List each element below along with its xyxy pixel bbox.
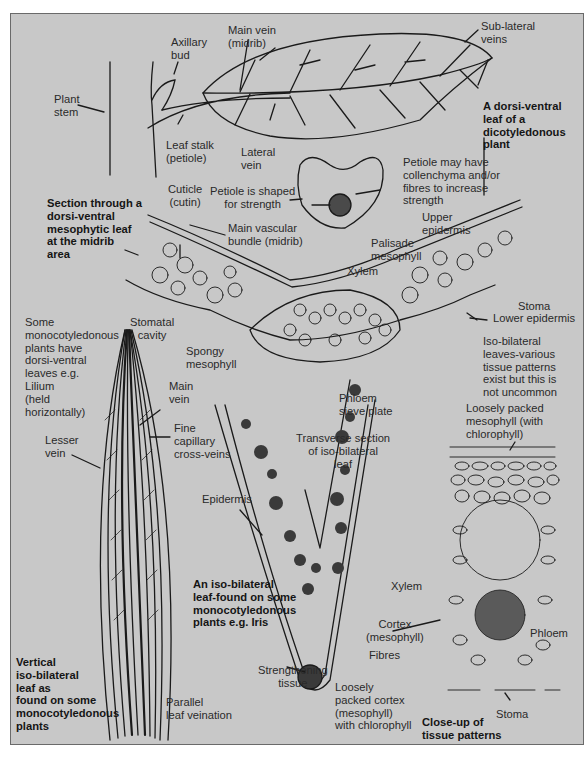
label-spongy-mesophyll: Spongy mesophyll <box>186 345 236 371</box>
label-parallel-veination: Parallel leaf veination <box>166 696 232 722</box>
lower-epidermis <box>126 280 495 340</box>
petiole-vascular-bundle <box>329 194 351 216</box>
label-petiole-shaped: Petiole is shaped for strength <box>210 185 295 211</box>
label-main-vascular-bundle: Main vascular bundle (midrib) <box>228 222 303 248</box>
label-xylem-iso: Xylem <box>391 580 422 593</box>
label-lilium-note: Some monocotyledonous plants have dorsi-… <box>25 316 119 418</box>
label-plant-stem: Plant stem <box>54 93 80 119</box>
label-petiole-collenchyma: Petiole may have collenchyma and/or fibr… <box>403 156 500 207</box>
label-loosely-packed-cortex: Loosely packed cortex (mesophyll) with c… <box>335 681 411 732</box>
label-lesser-vein: Lesser vein <box>45 434 79 460</box>
title-midrib-section: Section through a dorsi-ventral mesophyt… <box>47 197 142 261</box>
label-phloem-closeup: Phloem <box>530 627 568 640</box>
label-xylem-midrib: Xylem <box>347 265 378 278</box>
title-dicot-leaf: A dorsi-ventral leaf of a dicotyledonous… <box>483 100 566 151</box>
midrib-line <box>203 58 492 93</box>
title-iso-bilateral-leaf: An iso-bilateral leaf-found on some mono… <box>193 578 296 629</box>
label-stoma-midrib: Stoma <box>518 300 550 313</box>
label-sub-lateral-veins: Sub-lateral veins <box>481 20 535 46</box>
label-loosely-packed-mesophyll: Loosely packed mesophyll (with chlorophy… <box>466 402 544 440</box>
label-fine-capillary: Fine capillary cross-veins <box>174 422 231 460</box>
label-strengthening-tissue: Strengthening tissue <box>258 664 328 690</box>
label-iso-bilateral-note: Iso-bilateral leaves-various tissue patt… <box>483 335 557 399</box>
label-leaf-stalk: Leaf stalk (petiole) <box>166 139 214 165</box>
label-main-vein-monocot: Main vein <box>169 380 193 406</box>
stem-with-bud <box>151 62 156 177</box>
label-epidermis: Epidermis <box>202 493 252 506</box>
label-cuticle: Cuticle (cutin) <box>168 183 202 209</box>
petiole-cross-section <box>298 158 383 229</box>
axillary-bud-icon <box>152 80 175 110</box>
label-main-vein-midrib: Main vein (midrib) <box>228 24 276 50</box>
label-axillary-bud: Axillary bud <box>171 36 207 62</box>
label-fibres: Fibres <box>369 649 400 662</box>
label-stomatal-cavity: Stomatal cavity <box>130 316 174 342</box>
closeup-tissue <box>448 447 560 690</box>
label-cortex: Cortex (mesophyll) <box>366 618 424 644</box>
label-transverse-section: Transverse section of iso-bilateral leaf <box>296 432 390 470</box>
label-lateral-vein: Lateral vein <box>241 146 275 172</box>
label-lower-epidermis: Lower epidermis <box>493 312 575 325</box>
label-palisade-mesophyll: Palisade mesophyll <box>371 237 421 263</box>
title-monocot-leaf: Vertical iso-bilateral leaf as found on … <box>16 656 119 733</box>
label-phloem-sieve-plate: Phloem sieve plate <box>339 392 393 418</box>
title-closeup: Close-up of tissue patterns <box>422 716 502 742</box>
vascular-bundle-outline <box>250 290 400 362</box>
label-upper-epidermis: Upper epidermis <box>422 211 471 237</box>
